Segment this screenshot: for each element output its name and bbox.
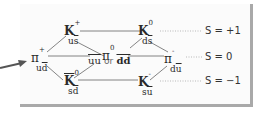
pi-zero-quarks: uu or dd	[88, 55, 130, 66]
strangeness-plus-one: S = +1	[205, 25, 241, 36]
strangeness-minus-one: S = −1	[205, 75, 241, 86]
node-k-plus: K+ us	[64, 22, 80, 46]
node-pi-plus: π+ ud	[31, 49, 48, 73]
strangeness-zero: S = 0	[205, 51, 232, 62]
node-k-zero: K0 ds	[138, 22, 153, 46]
node-k-minus: K- su	[138, 73, 152, 97]
node-pi-minus: π- du	[164, 50, 182, 74]
node-kbar-zero: K0 sd	[64, 72, 79, 96]
